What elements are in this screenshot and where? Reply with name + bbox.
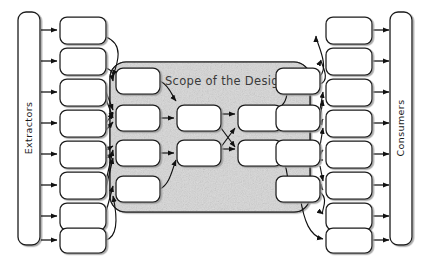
consumer-box-4[interactable] (326, 110, 372, 137)
consumer-box-1[interactable] (326, 17, 372, 44)
arrow-i4d-r7 (320, 192, 325, 214)
diagram-canvas: Scope of the Design Extractors Consumers (0, 0, 430, 260)
pipeline-diagram: Scope of the Design Extractors Consumers (0, 0, 430, 260)
inner4-box-4[interactable] (276, 176, 320, 202)
consumer-box-6[interactable] (326, 172, 372, 199)
extractor-box-3[interactable] (60, 79, 106, 106)
consumer-box-8[interactable] (326, 228, 372, 253)
arrows-bar-to-left-column (41, 30, 57, 240)
arrow-i4c-r4 (320, 128, 323, 146)
extractor-box-8[interactable] (60, 228, 106, 253)
inner4-box-2[interactable] (276, 105, 320, 131)
arrow-i4c-r6 (320, 166, 323, 181)
consumer-box-group (326, 17, 372, 253)
consumer-box-5[interactable] (326, 141, 372, 168)
extractors-bar[interactable]: Extractors (18, 12, 40, 245)
arrows-right-column-to-bar (373, 30, 389, 240)
extractor-box-group (60, 17, 106, 253)
consumer-box-2[interactable] (326, 48, 372, 75)
extractors-bar-label: Extractors (23, 102, 34, 155)
consumers-bar-label: Consumers (395, 100, 406, 157)
extractor-box-6[interactable] (60, 172, 106, 199)
scope-label: Scope of the Design (165, 74, 286, 88)
extractor-box-2[interactable] (60, 48, 106, 75)
extractor-box-4[interactable] (60, 110, 106, 137)
extractor-box-7[interactable] (60, 203, 106, 230)
inner4-box-3[interactable] (276, 140, 320, 166)
inner1-box-4[interactable] (116, 176, 160, 202)
consumer-box-3[interactable] (326, 79, 372, 106)
extractor-box-1[interactable] (60, 17, 106, 44)
inner2-box-2[interactable] (177, 140, 221, 166)
inner1-box-2[interactable] (116, 105, 160, 131)
inner1-box-3[interactable] (116, 140, 160, 166)
extractor-box-5[interactable] (60, 141, 106, 168)
inner2-box-1[interactable] (177, 105, 221, 131)
inner1-box-1[interactable] (116, 68, 160, 94)
consumers-bar[interactable]: Consumers (390, 12, 412, 245)
inner4-box-1[interactable] (276, 68, 320, 94)
consumer-box-7[interactable] (326, 203, 372, 230)
